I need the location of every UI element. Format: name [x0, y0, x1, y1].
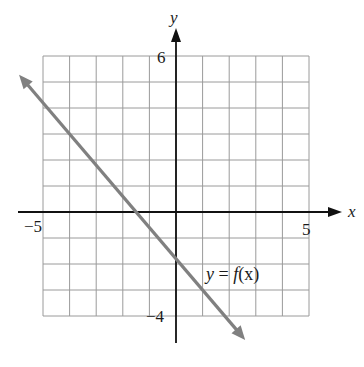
- curve-label: y = f(x): [204, 264, 259, 285]
- tick-label-x-max: 5: [302, 220, 311, 239]
- x-axis-label: x: [347, 202, 356, 221]
- y-axis-arrow-icon: [171, 28, 181, 42]
- function-line: [19, 75, 245, 340]
- x-axis-arrow-icon: [328, 207, 342, 217]
- tick-label-y-max: 6: [157, 48, 166, 67]
- curve-label-y: y: [204, 264, 214, 284]
- curve-label-arg: (x): [238, 264, 259, 285]
- function-line-segment: [26, 83, 238, 331]
- curve-label-equals: =: [214, 264, 233, 284]
- y-axis-label: y: [168, 8, 178, 27]
- tick-label-y-min: −4: [146, 307, 165, 326]
- tick-label-x-min: −5: [24, 217, 42, 236]
- coordinate-plane: x y −5 5 6 −4 y = f(x): [0, 0, 364, 367]
